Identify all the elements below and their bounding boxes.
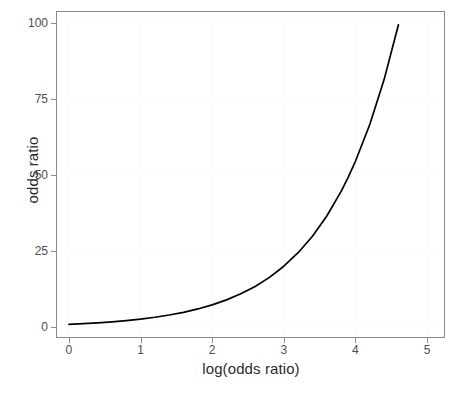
x-tick-4: 4 — [340, 343, 370, 357]
x-tick-0: 0 — [54, 343, 84, 357]
figure-container: 0 25 50 75 100 0 1 2 3 4 5 odds ratio lo… — [0, 0, 466, 394]
x-tick-5: 5 — [412, 343, 442, 357]
x-tick-label: 5 — [412, 343, 442, 357]
odds-ratio-line-chart — [0, 0, 466, 394]
x-tick-label: 3 — [269, 343, 299, 357]
x-tick-label: 1 — [126, 343, 156, 357]
y-axis-title: odds ratio — [22, 0, 44, 340]
x-tick-label: 2 — [197, 343, 227, 357]
x-axis-title: log(odds ratio) — [56, 360, 446, 377]
x-tick-2: 2 — [197, 343, 227, 357]
x-tick-3: 3 — [269, 343, 299, 357]
x-tick-1: 1 — [126, 343, 156, 357]
x-tick-label: 4 — [340, 343, 370, 357]
x-tick-label: 0 — [54, 343, 84, 357]
